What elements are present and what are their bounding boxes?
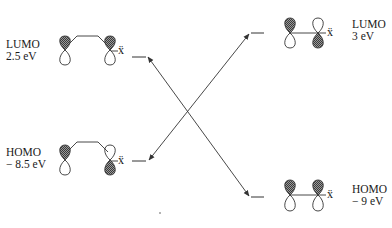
left-lumo-atom1-bottom-lobe bbox=[60, 50, 71, 65]
left-homo-bridge bbox=[67, 142, 108, 152]
right-homo-atom1-top-lobe bbox=[285, 180, 296, 195]
left-homo-label: HOMO − 8.5 eV bbox=[6, 146, 46, 170]
stray-dot bbox=[159, 212, 161, 214]
left-lumo-orbitals bbox=[60, 36, 146, 65]
left-lumo-atom1-top-lobe bbox=[60, 36, 71, 50]
left-homo-atom1-bottom-lobe bbox=[60, 160, 71, 175]
left-homo-atom2-top-lobe bbox=[105, 145, 116, 160]
right-lumo-atom1-bottom-lobe bbox=[285, 33, 296, 48]
arrow-left-lumo-to-right-homo bbox=[148, 57, 249, 196]
right-lumo-orbitals bbox=[251, 18, 326, 48]
right-homo-orbitals bbox=[251, 180, 326, 211]
left-lumo-label: LUMO 2.5 eV bbox=[6, 38, 40, 62]
right-lumo-atom1-top-lobe bbox=[285, 18, 296, 33]
arrow-left-homo-to-right-lumo bbox=[149, 34, 249, 160]
left-lumo-energy: 2.5 eV bbox=[6, 50, 40, 62]
right-homo-atom1-bottom-lobe bbox=[285, 195, 296, 211]
left-lumo-bridge bbox=[67, 36, 108, 46]
right-lumo-atom2-top-lobe bbox=[313, 18, 324, 33]
left-lumo-atom2-bottom-lobe bbox=[105, 50, 116, 65]
left-homo-atom2-bottom-lobe bbox=[105, 160, 116, 175]
right-lumo-atom2-bottom-lobe bbox=[313, 33, 324, 48]
left-lumo-atom2-top-lobe bbox=[105, 36, 116, 50]
left-homo-energy: − 8.5 eV bbox=[6, 158, 46, 170]
left-lumo-title: LUMO bbox=[6, 38, 40, 50]
right-homo-atom2-bottom-lobe bbox=[313, 195, 324, 211]
right-homo-atom2-top-lobe bbox=[313, 180, 324, 195]
left-homo-orbitals bbox=[60, 142, 146, 175]
diagram-canvas bbox=[0, 0, 392, 228]
right-homo-substituent: ẍ bbox=[327, 188, 333, 200]
right-homo-label: HOMO − 9 eV bbox=[352, 183, 387, 207]
right-homo-energy: − 9 eV bbox=[352, 195, 387, 207]
right-lumo-title: LUMO bbox=[352, 18, 386, 30]
right-lumo-energy: 3 eV bbox=[352, 30, 386, 42]
right-homo-title: HOMO bbox=[352, 183, 387, 195]
right-lumo-substituent: ẍ bbox=[327, 26, 333, 38]
left-homo-atom1-top-lobe bbox=[60, 145, 71, 160]
left-homo-title: HOMO bbox=[6, 146, 46, 158]
left-homo-substituent: ẍ bbox=[118, 154, 124, 166]
left-lumo-substituent: ẍ bbox=[118, 44, 124, 56]
right-lumo-label: LUMO 3 eV bbox=[352, 18, 386, 42]
fmo-diagram: LUMO 2.5 eV HOMO − 8.5 eV LUMO 3 eV HOMO… bbox=[0, 0, 392, 228]
